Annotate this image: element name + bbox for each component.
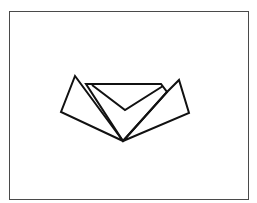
- folded-shape-diagram: [0, 0, 257, 203]
- center-panel-shape: [86, 84, 167, 141]
- right-panel-shape: [123, 80, 189, 141]
- center-notch-line: [92, 85, 163, 110]
